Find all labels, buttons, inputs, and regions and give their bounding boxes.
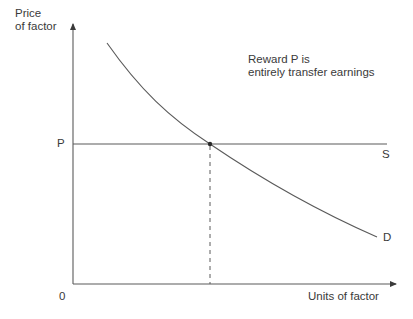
y-axis-label-line1: Price: [15, 7, 57, 20]
equilibrium-point: [208, 142, 212, 146]
origin-label: 0: [59, 290, 65, 303]
x-axis-label: Units of factor: [308, 290, 379, 303]
annotation: Reward P is entirely transfer earnings: [248, 53, 375, 79]
y-axis-label-line2: of factor: [15, 20, 57, 33]
price-level-label: P: [57, 137, 65, 150]
factor-market-diagram: Price of factor Reward P is entirely tra…: [0, 0, 413, 319]
annotation-line1: Reward P is: [248, 53, 375, 66]
demand-curve-label: D: [383, 231, 391, 244]
supply-curve-label: S: [382, 148, 390, 161]
annotation-line2: entirely transfer earnings: [248, 66, 375, 79]
y-axis-label: Price of factor: [15, 7, 57, 33]
